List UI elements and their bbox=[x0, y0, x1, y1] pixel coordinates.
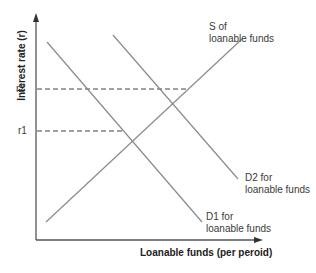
supply-label: S of loanable funds bbox=[209, 21, 274, 45]
x-axis-label: Loanable funds (per peroid) bbox=[140, 247, 272, 258]
y-axis-label: Interest rate (r) bbox=[16, 11, 27, 121]
demand-curve-d2 bbox=[113, 35, 238, 179]
d1-label: D1 for loanable funds bbox=[206, 211, 271, 235]
d2-label: D2 for loanable funds bbox=[245, 172, 310, 196]
y-axis-arrow-icon bbox=[33, 13, 39, 22]
tick-r1: r1 bbox=[18, 125, 27, 136]
supply-curve bbox=[46, 39, 242, 222]
x-axis-arrow-icon bbox=[254, 237, 263, 243]
demand-curve-d1 bbox=[47, 42, 202, 222]
tick-r2: r2 bbox=[16, 83, 25, 94]
